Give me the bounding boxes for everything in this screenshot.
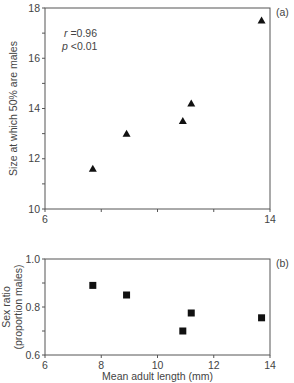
figure: 1012141618 614 Size at which 50% are mal…: [0, 0, 294, 383]
y-tick-label: 18: [28, 2, 40, 14]
y-tick-label: 12: [28, 152, 40, 164]
triangle-marker: [179, 117, 187, 124]
x-tick-label: 6: [42, 213, 48, 225]
x-axis-label: Mean adult length (mm): [102, 370, 213, 382]
panel-a-y-axis-label: Size at which 50% are males: [7, 41, 19, 176]
panel-b-y-ticks: 0.60.81.0: [25, 253, 45, 361]
correlation-r-annotation: r =0.96: [64, 27, 97, 39]
panel-b-y-axis-label-line2: (proportion males): [12, 264, 24, 349]
y-tick-label: 14: [28, 102, 40, 114]
panel-a: 1012141618 614 Size at which 50% are mal…: [7, 2, 289, 226]
triangle-marker: [123, 130, 131, 137]
x-tick-label: 6: [42, 359, 48, 371]
panel-a-label: (a): [276, 6, 289, 18]
panel-a-data-points: [89, 17, 266, 172]
square-marker: [89, 282, 96, 289]
panel-b: 0.60.81.0 68101214 Sex ratio (proportion…: [0, 253, 289, 383]
p-value-annotation: p <0.01: [61, 40, 97, 52]
y-tick-label: 10: [28, 203, 40, 215]
panel-a-x-ticks: 614: [42, 209, 276, 225]
y-tick-label: 0.6: [25, 349, 40, 361]
panel-b-frame: [45, 259, 270, 355]
y-tick-label: 16: [28, 52, 40, 64]
y-tick-label: 0.8: [25, 301, 40, 313]
panel-b-y-axis-label-line1: Sex ratio: [0, 286, 12, 328]
square-marker: [179, 328, 186, 335]
triangle-marker: [258, 17, 266, 24]
y-tick-label: 1.0: [25, 253, 40, 265]
panel-b-data-points: [89, 282, 265, 335]
panel-b-label: (b): [276, 257, 289, 269]
panel-b-x-ticks: 68101214: [42, 355, 276, 371]
square-marker: [123, 292, 130, 299]
triangle-marker: [187, 99, 195, 106]
square-marker: [258, 314, 265, 321]
x-tick-label: 14: [264, 359, 276, 371]
triangle-marker: [89, 165, 97, 172]
square-marker: [188, 310, 195, 317]
panel-a-y-ticks: 1012141618: [28, 2, 45, 215]
x-tick-label: 14: [264, 213, 276, 225]
